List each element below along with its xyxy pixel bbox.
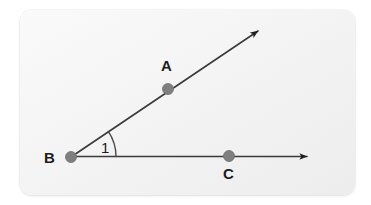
- point-label-c: C: [223, 166, 234, 181]
- angle-arc: [108, 131, 116, 156]
- point-label-b: B: [44, 150, 55, 165]
- angle-label-1: 1: [101, 140, 109, 155]
- ray-ba-line: [71, 31, 258, 157]
- point-dot-a: [163, 84, 174, 95]
- point-label-a: A: [161, 58, 172, 73]
- angle-figure: [0, 0, 371, 205]
- diagram-canvas: A B C 1: [0, 0, 371, 205]
- point-dot-c: [224, 151, 235, 162]
- point-dot-b: [66, 152, 77, 163]
